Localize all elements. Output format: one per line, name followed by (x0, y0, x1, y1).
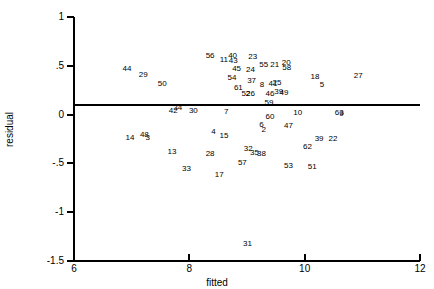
x-tick-label: 6 (59, 264, 89, 274)
x-axis-line (73, 260, 420, 262)
data-point-label: 23 (248, 53, 257, 61)
data-point-label: 54 (228, 74, 237, 82)
data-point-label: 28 (206, 150, 215, 158)
data-point-label: 55 (259, 61, 268, 69)
x-tick-mark (419, 254, 421, 261)
data-point-label: 57 (238, 159, 247, 167)
data-point-label: 39 (315, 135, 324, 143)
data-point-label: 22 (328, 135, 337, 143)
data-point-label: 60 (266, 113, 275, 121)
data-point-label: 7 (224, 108, 228, 116)
data-point-label: 24 (246, 66, 255, 74)
data-point-label: 33 (182, 165, 191, 173)
x-tick-mark (73, 254, 75, 261)
y-tick-mark (67, 211, 74, 213)
data-point-label: 30 (189, 107, 198, 115)
data-point-label: 27 (354, 72, 363, 80)
data-point-label: 17 (215, 171, 224, 179)
x-tick-mark (188, 254, 190, 261)
y-axis-line (73, 17, 75, 262)
data-point-label: 62 (303, 143, 312, 151)
data-point-label: 8 (260, 81, 264, 89)
x-axis-title: fitted (0, 277, 434, 288)
data-point-label: 29 (139, 71, 148, 79)
data-point-label: 34 (173, 104, 182, 112)
y-tick-label: .5 (34, 61, 64, 71)
data-point-label: 3 (146, 134, 150, 142)
data-point-label: 50 (158, 80, 167, 88)
x-tick-label: 10 (290, 264, 320, 274)
data-point-label: 44 (123, 65, 132, 73)
y-tick-mark (67, 16, 74, 18)
y-tick-label: 1 (34, 12, 64, 22)
data-point-label: 14 (125, 134, 134, 142)
data-point-label: 21 (270, 61, 279, 69)
data-point-label: 4 (211, 128, 215, 136)
data-point-label: 47 (284, 122, 293, 130)
data-point-label: 58 (282, 64, 291, 72)
data-point-label: 15 (219, 132, 228, 140)
data-point-label: 2 (261, 126, 265, 134)
y-tick-label: 0 (34, 110, 64, 120)
data-point-label: 11 (220, 56, 228, 64)
y-tick-mark (67, 65, 74, 67)
y-axis-title: residual (4, 100, 15, 160)
data-point-label: 10 (293, 109, 302, 117)
y-tick-label: -1 (34, 207, 64, 217)
x-tick-label: 12 (405, 264, 434, 274)
data-point-label: 49 (279, 89, 288, 97)
y-tick-mark (67, 114, 74, 116)
data-point-label: 51 (308, 163, 317, 171)
x-tick-label: 8 (174, 264, 204, 274)
x-tick-mark (304, 254, 306, 261)
data-point-label: 59 (264, 99, 273, 107)
zero-reference-line (74, 104, 420, 106)
y-tick-label: -.5 (34, 158, 64, 168)
y-tick-mark (67, 162, 74, 164)
data-point-label: 38 (257, 150, 266, 158)
data-point-label: 26 (246, 90, 255, 98)
data-point-label: 13 (168, 148, 177, 156)
data-point-label: 18 (311, 73, 320, 81)
data-point-label: 53 (284, 162, 293, 170)
data-point-label: 5 (320, 81, 324, 89)
data-point-label: 37 (247, 77, 256, 85)
data-point-label: 31 (243, 240, 252, 248)
data-point-label: 9 (339, 110, 343, 118)
residual-vs-fitted-scatter-plot: 1.50-.5-1-1.5 681012 residual fitted 442… (0, 0, 434, 289)
data-point-label: 56 (206, 52, 215, 60)
